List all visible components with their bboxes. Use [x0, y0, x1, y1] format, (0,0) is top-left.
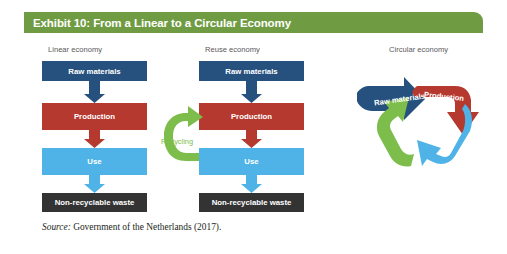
reuse-recycling-arrow [164, 106, 203, 161]
column-caption-circular: Circular economy [389, 45, 448, 54]
reuse-box-non-recyclable-waste: Non-recyclable waste [199, 193, 304, 212]
circular-label-raw-materials: Raw materials [374, 91, 426, 107]
linear-box-production: Production [42, 103, 147, 130]
exhibit-title: Exhibit 10: From a Linear to a Circular … [33, 17, 291, 29]
circular-label-recycling: Recycling [404, 110, 428, 146]
linear-box-raw-materials: Raw materials [42, 61, 147, 81]
source-keyword: Source: [42, 222, 71, 232]
source-value: Government of the Netherlands (2017). [71, 222, 221, 232]
reuse-arrow-production-to-use [241, 130, 262, 148]
reuse-box-use: Use [199, 148, 304, 175]
circular-label-production: Production [424, 90, 465, 103]
column-caption-linear: Linear economy [48, 45, 102, 54]
reuse-recycling-label: Recycling [161, 137, 193, 146]
linear-arrow-production-to-use [84, 130, 105, 148]
linear-arrow-use-to-waste [84, 175, 105, 193]
reuse-box-raw-materials: Raw materials [199, 61, 304, 81]
linear-arrow-raw-to-production [84, 81, 105, 103]
reuse-arrow-raw-to-production [241, 81, 262, 103]
exhibit-title-bar: Exhibit 10: From a Linear to a Circular … [24, 12, 483, 33]
reuse-box-production: Production [199, 103, 304, 130]
source-note: Source: Government of the Netherlands (2… [42, 222, 221, 232]
column-caption-reuse: Reuse economy [205, 45, 260, 54]
reuse-arrow-use-to-waste [241, 175, 262, 193]
exhibit-figure: Exhibit 10: From a Linear to a Circular … [0, 0, 507, 254]
linear-box-use: Use [42, 148, 147, 175]
circular-label-use: Use [444, 121, 456, 137]
linear-box-non-recyclable-waste: Non-recyclable waste [42, 193, 147, 212]
